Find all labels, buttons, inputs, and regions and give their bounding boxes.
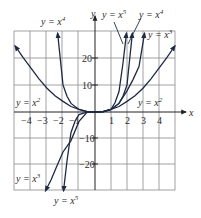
curve-labels: y = x4 y = x5 y = x4 y = x3 y = x2 y = x… [15, 8, 173, 206]
x-tick-labels: −4 −3 −2 −1 1 2 3 4 [21, 115, 162, 126]
svg-text:4: 4 [157, 115, 162, 126]
svg-text:20: 20 [82, 53, 92, 64]
svg-text:1: 1 [109, 115, 114, 126]
svg-text:−4: −4 [21, 115, 32, 126]
svg-text:−20: −20 [79, 159, 95, 170]
label-x5-top-right: y = x5 [101, 8, 127, 20]
svg-text:3: 3 [141, 115, 146, 126]
label-x4-top-left: y = x4 [40, 15, 66, 27]
svg-text:2: 2 [125, 115, 130, 126]
label-x4-top-right: y = x4 [138, 8, 164, 20]
label-x3-bottom-left: y = x3 [15, 172, 41, 184]
svg-text:−10: −10 [79, 133, 95, 144]
label-x2-left: y = x2 [15, 96, 41, 108]
svg-text:−2: −2 [53, 115, 64, 126]
label-x5-bottom: y = x5 [53, 194, 79, 206]
label-x3-top-right: y = x3 [147, 28, 173, 40]
power-functions-chart: x y −4 −3 −2 −1 1 2 3 4 20 10 −10 −20 y … [0, 0, 201, 218]
y-axis-label: y [90, 8, 96, 19]
x-axis-label: x [188, 107, 194, 118]
svg-text:10: 10 [82, 80, 92, 91]
svg-text:−3: −3 [37, 115, 48, 126]
